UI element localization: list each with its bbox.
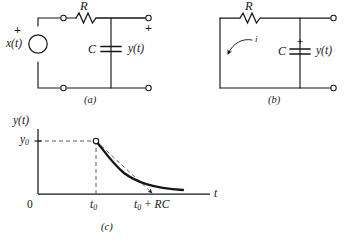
wire-source-top xyxy=(38,18,60,26)
terminal-a-bottom-left xyxy=(61,85,66,90)
output-polarity-a: + xyxy=(145,22,152,34)
plot-origin-label: 0 xyxy=(27,199,33,211)
figure-vector-layer xyxy=(0,0,358,246)
plot-x-tick-t0-plus-rc: t0 + RC xyxy=(134,199,169,211)
capacitor-b-label: C xyxy=(278,45,286,57)
source-polarity-a: + xyxy=(14,24,21,36)
tangent-line-rc xyxy=(96,141,151,192)
terminal-a-top-right xyxy=(146,15,151,20)
caption-a: (a) xyxy=(84,95,96,106)
plot-y-tick-label: y0 xyxy=(20,134,29,146)
plot-x-tick-rc-subscript: 0 xyxy=(137,203,141,212)
plot-x-tick-t0-subscript: 0 xyxy=(93,203,97,212)
current-direction-arrow xyxy=(229,40,253,53)
plot-y-tick-subscript: 0 xyxy=(25,138,29,147)
output-label-b: y(t) xyxy=(316,45,332,57)
capacitor-polarity-b: + xyxy=(297,36,303,47)
resistor-b-label: R xyxy=(245,0,253,13)
output-label-a: y(t) xyxy=(128,43,144,55)
terminal-b-bottom-right xyxy=(331,85,336,90)
resistor-a-label: R xyxy=(80,0,88,13)
figure-root: R + x(t) C + y(t) (a) R i C + y(t) (b) y… xyxy=(0,0,358,246)
voltage-source-symbol-a xyxy=(29,35,47,53)
plot-y-axis-label: y(t) xyxy=(13,115,29,127)
plot-x-axis-label: t xyxy=(214,188,217,200)
panel-c-plot xyxy=(35,129,211,194)
current-label-b: i xyxy=(255,35,258,44)
capacitor-a-label: C xyxy=(88,43,96,55)
terminal-a-bottom-right xyxy=(146,85,151,90)
source-label-a: x(t) xyxy=(6,38,22,50)
decay-curve xyxy=(96,141,183,190)
curve-start-marker xyxy=(93,138,98,143)
plot-x-tick-rc-suffix: + RC xyxy=(141,198,169,210)
terminal-b-top-right xyxy=(331,15,336,20)
wire-source-bottom xyxy=(38,62,60,88)
caption-c: (c) xyxy=(101,222,113,233)
resistor-b-top-rail xyxy=(220,13,330,23)
terminal-a-top-left xyxy=(61,15,66,20)
plot-x-tick-t0: t0 xyxy=(90,199,97,211)
caption-b: (b) xyxy=(268,95,280,106)
